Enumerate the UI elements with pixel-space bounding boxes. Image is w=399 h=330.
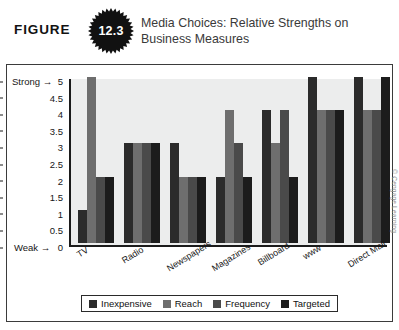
y-axis-tick-label: 4.5: [3, 92, 63, 103]
figure-page: FIGURE 12.3 Media Choices: Relative Stre…: [0, 0, 399, 330]
chart-frame: 00.511.522.533.544.55 TVRadioNewspapersM…: [6, 64, 393, 322]
bar: [133, 143, 142, 243]
y-axis-tick-label: 2: [3, 175, 63, 186]
bar-group: [73, 77, 119, 243]
y-axis-tick-label: 1.5: [3, 192, 63, 203]
y-axis-tick-mark: [0, 214, 3, 215]
legend-label: Targeted: [293, 298, 330, 309]
y-axis-weak-label: Weak →: [14, 242, 50, 253]
y-axis-tick-mark: [0, 247, 3, 248]
y-axis-tick-label: 2.5: [3, 159, 63, 170]
bar: [188, 177, 197, 243]
bar: [262, 110, 271, 243]
figure-title: Media Choices: Relative Strengths on Bus…: [141, 15, 391, 47]
bar: [179, 177, 188, 243]
bar: [124, 143, 133, 243]
bar: [381, 77, 390, 243]
legend-swatch: [89, 300, 97, 308]
copyright-credit: © Cengage Learning: [391, 169, 398, 233]
y-axis-tick-label: 1: [3, 208, 63, 219]
legend-swatch: [213, 300, 221, 308]
bar: [142, 143, 151, 243]
y-axis-tick-mark: [0, 230, 3, 231]
bar: [372, 110, 381, 243]
figure-number-text: 12.3: [88, 8, 134, 54]
y-axis-tick-mark: [0, 114, 3, 115]
bar-group: [119, 77, 165, 243]
bar: [271, 143, 280, 243]
bar: [170, 143, 179, 243]
bar: [335, 110, 344, 243]
figure-header: FIGURE 12.3 Media Choices: Relative Stre…: [0, 0, 399, 62]
bar-group: [211, 77, 257, 243]
x-axis-label: Radio: [120, 245, 145, 266]
bar: [234, 143, 243, 243]
bar: [308, 77, 317, 243]
legend-item: Inexpensive: [89, 298, 152, 309]
y-axis-tick-mark: [0, 98, 3, 99]
bar: [243, 177, 252, 243]
bar: [197, 177, 206, 243]
bar: [354, 77, 363, 243]
legend-swatch: [281, 300, 289, 308]
bar-group: [349, 77, 395, 243]
bar: [87, 77, 96, 243]
bar: [280, 110, 289, 243]
figure-word-label: FIGURE: [14, 22, 70, 37]
plot-wrapper: 00.511.522.533.544.55 TVRadioNewspapersM…: [69, 79, 387, 247]
bar: [96, 177, 105, 243]
bar: [225, 110, 234, 243]
bar: [326, 110, 335, 243]
legend-swatch: [163, 300, 171, 308]
plot-area: [69, 79, 387, 247]
y-axis-tick-mark: [0, 131, 3, 132]
bar: [363, 110, 372, 243]
legend-label: Inexpensive: [101, 298, 152, 309]
figure-number-badge: 12.3: [88, 8, 134, 54]
bar: [151, 143, 160, 243]
y-axis-tick-mark: [0, 181, 3, 182]
x-axis-label: TV: [75, 245, 90, 260]
chart-legend: InexpensiveReachFrequencyTargeted: [81, 295, 338, 312]
bar: [78, 210, 87, 243]
y-axis-tick-mark: [0, 81, 3, 82]
y-axis-tick-label: 3: [3, 142, 63, 153]
bar: [105, 177, 114, 243]
y-axis-tick-mark: [0, 147, 3, 148]
legend-item: Targeted: [281, 298, 330, 309]
bar-group: [303, 77, 349, 243]
legend-item: Reach: [163, 298, 202, 309]
bar: [289, 177, 298, 243]
bar-group: [257, 77, 303, 243]
legend-item: Frequency: [213, 298, 270, 309]
bar: [317, 110, 326, 243]
y-axis-tick-mark: [0, 164, 3, 165]
bar-groups: [73, 77, 389, 243]
bar: [216, 177, 225, 243]
legend-label: Reach: [175, 298, 202, 309]
y-axis-strong-label: Strong →: [12, 76, 52, 87]
y-axis-tick-label: 4: [3, 109, 63, 120]
bar-group: [165, 77, 211, 243]
legend-label: Frequency: [225, 298, 270, 309]
y-axis-tick-label: 3.5: [3, 125, 63, 136]
y-axis-tick-label: 0.5: [3, 225, 63, 236]
y-axis-tick-mark: [0, 197, 3, 198]
